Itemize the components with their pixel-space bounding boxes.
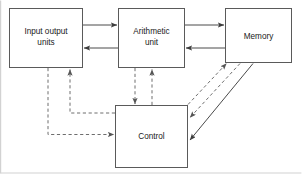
control-label: Control [138, 132, 165, 141]
arithmetic-unit-label-line2: unit [145, 38, 159, 47]
edge-io-control-group [48, 68, 115, 135]
edge-io-arithmetic-group [83, 25, 118, 48]
diagram-canvas: Input output units Arithmetic unit Memor… [0, 0, 302, 174]
edge-control-memory-group [188, 64, 253, 141]
edge-arithmetic-control-group [135, 68, 152, 105]
edge-io-to-control [48, 68, 114, 135]
node-input-output-units[interactable]: Input output units [10, 9, 83, 68]
node-control[interactable]: Control [116, 106, 188, 168]
arithmetic-unit-label-line1: Arithmetic [133, 27, 169, 36]
input-output-units-label-line2: units [37, 38, 54, 47]
edge-memory-to-control-solid [190, 64, 253, 141]
node-memory[interactable]: Memory [226, 9, 292, 63]
block-diagram: Input output units Arithmetic unit Memor… [0, 0, 302, 174]
node-arithmetic-unit[interactable]: Arithmetic unit [119, 9, 185, 68]
input-output-units-label-line1: Input output [24, 27, 68, 36]
memory-label: Memory [244, 32, 274, 41]
edge-arithmetic-memory-group [185, 25, 225, 48]
edge-control-to-io [70, 70, 115, 114]
